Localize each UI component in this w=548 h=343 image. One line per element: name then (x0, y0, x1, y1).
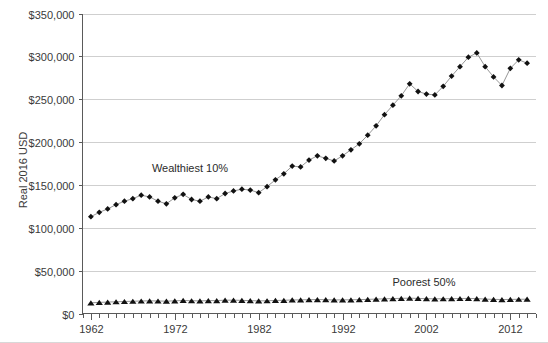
y-tick-label: $0 (62, 309, 74, 321)
y-tick-label: $250,000 (29, 94, 75, 106)
data-point-diamond (138, 192, 144, 198)
data-point-diamond (340, 153, 346, 159)
data-point-diamond (197, 198, 203, 204)
data-point-diamond (122, 198, 128, 204)
data-point-diamond (172, 195, 178, 201)
data-point-diamond (474, 50, 480, 56)
x-tick-label: 1992 (331, 323, 355, 335)
series-annotation-wealthiest: Wealthiest 10% (152, 162, 228, 174)
data-point-diamond (155, 198, 161, 204)
data-series (87, 50, 530, 305)
y-tick-label: $100,000 (29, 223, 75, 235)
gridlines (83, 15, 536, 272)
y-tick-label: $50,000 (35, 266, 75, 278)
y-tick-label: $200,000 (29, 137, 75, 149)
chart-canvas: $0$50,000$100,000$150,000$200,000$250,00… (0, 0, 548, 343)
data-point-diamond (189, 197, 195, 203)
x-tick-label: 2012 (498, 323, 522, 335)
x-tick-label: 1962 (79, 323, 103, 335)
series-annotation-poorest: Poorest 50% (393, 276, 456, 288)
data-point-diamond (88, 214, 94, 220)
data-point-diamond (231, 188, 237, 194)
data-point-diamond (331, 158, 337, 164)
x-axis-ticks: 196219721982199220022012 (79, 314, 536, 335)
data-point-diamond (113, 202, 119, 208)
data-point-diamond (147, 194, 153, 200)
data-point-diamond (130, 196, 136, 202)
y-tick-label: $300,000 (29, 51, 75, 63)
x-tick-label: 1972 (163, 323, 187, 335)
series-wealthiest-10 (88, 50, 530, 220)
data-point-diamond (323, 155, 329, 161)
data-point-diamond (348, 147, 354, 153)
data-point-diamond (247, 187, 253, 193)
y-axis-title: Real 2016 USD (17, 132, 29, 208)
y-tick-label: $150,000 (29, 180, 75, 192)
y-tick-label: $350,000 (29, 9, 75, 21)
data-point-diamond (214, 196, 220, 202)
data-point-diamond (524, 60, 530, 66)
data-point-diamond (222, 191, 228, 197)
data-point-diamond (239, 186, 245, 192)
data-point-diamond (205, 194, 211, 200)
series-poorest-50 (87, 296, 530, 306)
data-point-diamond (256, 190, 262, 196)
data-point-diamond (105, 206, 111, 212)
data-point-diamond (314, 153, 320, 159)
y-axis-ticks: $0$50,000$100,000$150,000$200,000$250,00… (29, 9, 83, 321)
data-point-diamond (163, 201, 169, 207)
data-point-diamond (96, 209, 102, 215)
x-tick-label: 1982 (247, 323, 271, 335)
data-point-diamond (180, 191, 186, 197)
x-tick-label: 2002 (414, 323, 438, 335)
chart-figure: $0$50,000$100,000$150,000$200,000$250,00… (0, 0, 548, 343)
data-point-diamond (424, 91, 430, 97)
